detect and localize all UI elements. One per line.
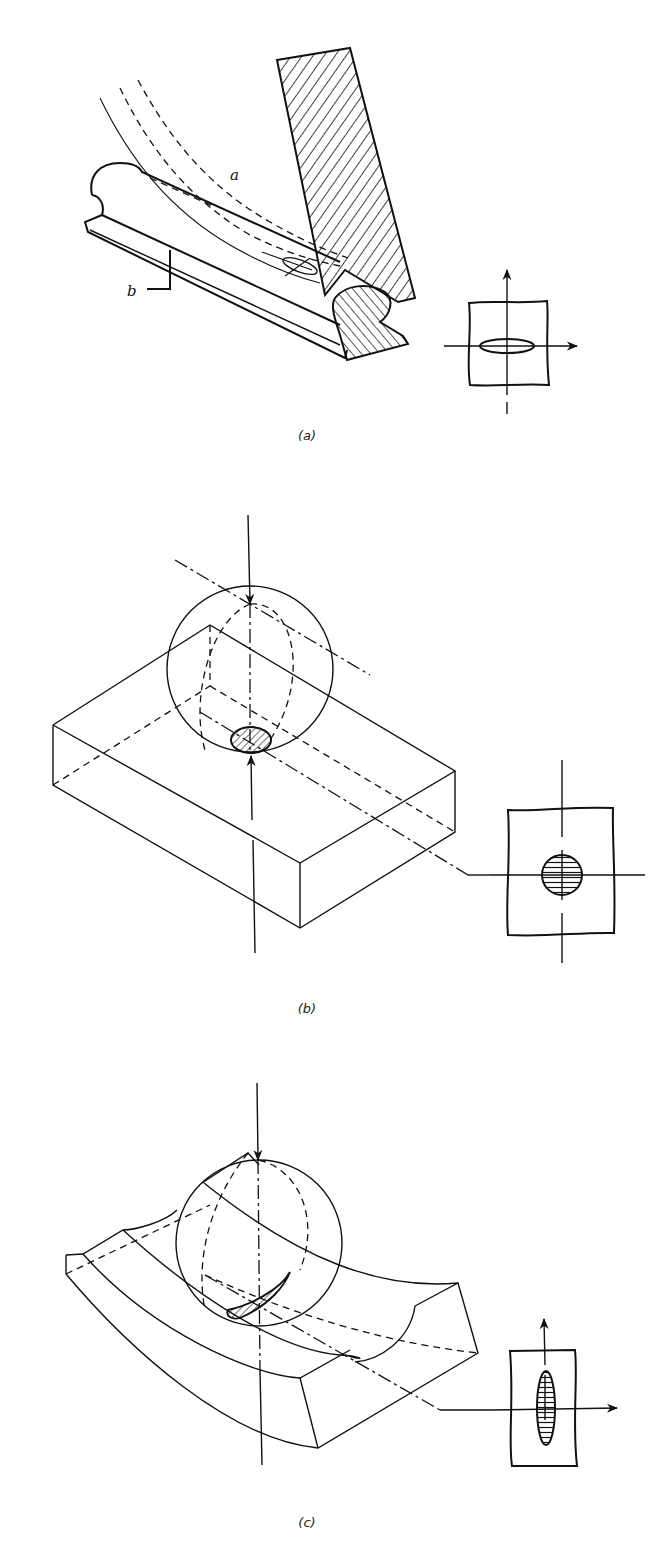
sphere-b-lower-axis — [253, 840, 255, 953]
sphere-c-projection-line — [205, 1275, 440, 1410]
figure-canvas: a b (a) — [0, 0, 665, 1552]
grinding-wheel — [277, 48, 415, 302]
panel-a: a b (a) — [85, 48, 577, 443]
curve-solid — [100, 98, 320, 283]
load-arrow-top — [248, 515, 250, 604]
grooved-block — [66, 1183, 478, 1448]
sphere-b-meridian-2 — [250, 604, 293, 740]
inset-a — [444, 270, 577, 414]
caption-b: (b) — [298, 1001, 316, 1016]
inset-c-vertical-axis — [544, 1319, 545, 1365]
load-arrow-bottom — [251, 756, 252, 820]
label-a: a — [230, 166, 239, 184]
panel-b: (b) — [53, 515, 645, 1016]
panel-c: (c) — [66, 1083, 617, 1530]
label-b: b — [127, 282, 137, 300]
inset-b — [490, 760, 645, 963]
sphere-c-lower-axis — [260, 1370, 262, 1465]
sphere-c-center-axis — [258, 1160, 260, 1370]
wheel-edge-dashed — [150, 178, 215, 207]
sphere-c-meridian-2 — [259, 1160, 308, 1270]
caption-c: (c) — [298, 1515, 315, 1530]
contact-patch-b — [231, 727, 271, 753]
load-arrow-c — [257, 1083, 258, 1160]
sphere-b-horizontal-axis — [175, 560, 370, 675]
inset-c — [490, 1319, 617, 1466]
inset-c-contact-ellipse — [537, 1371, 555, 1445]
caption-a: (a) — [298, 428, 316, 443]
